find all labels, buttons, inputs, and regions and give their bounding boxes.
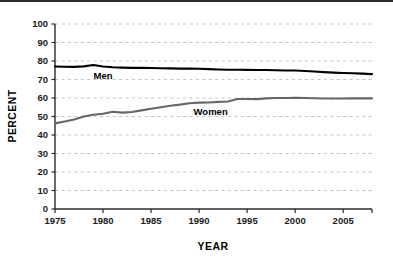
line-chart-plot: 0102030405060708090100 19751980198519901… [0,0,393,265]
x-tick-label-2000: 2000 [285,215,306,226]
x-tick-label-1990: 1990 [189,215,210,226]
y-tick-label-80: 80 [37,55,48,66]
y-tick-label-0: 0 [43,203,48,214]
series-label-men: Men [94,70,113,81]
x-tick-group: 1975198019851990199520002005 [44,209,372,226]
x-tick-label-1980: 1980 [92,215,113,226]
y-tick-label-40: 40 [37,129,48,140]
y-axis-title: PERCENT [6,89,18,142]
chart-container: 0102030405060708090100 19751980198519901… [0,0,393,265]
x-tick-label-1985: 1985 [140,215,162,226]
y-tick-label-10: 10 [37,185,48,196]
y-tick-label-50: 50 [37,111,48,122]
series-label-group: MenWomen [94,70,228,117]
y-tick-label-60: 60 [37,92,48,103]
y-tick-label-70: 70 [37,74,48,85]
x-axis-title: YEAR [198,240,229,252]
y-tick-label-20: 20 [37,166,48,177]
x-tick-label-1975: 1975 [44,215,66,226]
x-tick-label-2005: 2005 [333,215,355,226]
y-tick-label-90: 90 [37,37,48,48]
x-tick-label-1995: 1995 [237,215,259,226]
y-tick-label-100: 100 [32,18,48,29]
series-label-women: Women [194,106,228,117]
y-tick-group: 0102030405060708090100 [32,18,55,214]
y-tick-label-30: 30 [37,148,48,159]
